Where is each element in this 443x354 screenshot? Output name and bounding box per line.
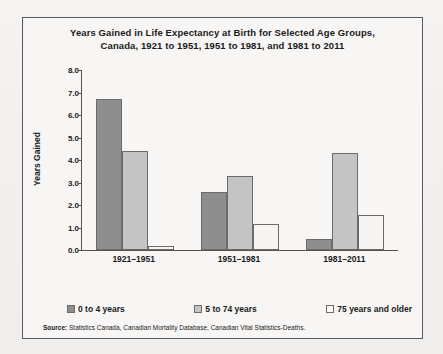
bar-1981–2011-75-years-and-older[interactable] [358,215,384,250]
bar-1951–1981-75-years-and-older[interactable] [253,224,279,250]
legend: 0 to 4 years5 to 74 years75 years and ol… [67,304,412,314]
source-prefix: Source: [43,324,67,331]
figure-container: Years Gained in Life Expectancy at Birth… [22,17,423,339]
legend-swatch-icon [67,305,75,313]
y-axis-tickmark [78,183,82,184]
legend-item-5-to-74-years[interactable]: 5 to 74 years [194,304,257,314]
y-axis-tickmark [78,250,82,251]
legend-swatch-icon [194,305,202,313]
y-axis-tickmark [78,115,82,116]
y-axis-label: Years Gained [32,132,42,186]
bar-group-1951–1981 [187,70,292,250]
source-text: Statistics Canada, Canadian Mortality Da… [69,324,305,331]
legend-label: 5 to 74 years [205,304,257,314]
x-axis-tick-labels: 1921–19511951–19811981–2011 [81,254,397,264]
y-axis-tickmark [78,160,82,161]
legend-item-0-to-4-years[interactable]: 0 to 4 years [67,304,125,314]
bar-groups [82,70,398,250]
bar-1921–1951-0-to-4-years[interactable] [96,99,122,250]
bar-1921–1951-5-to-74-years[interactable] [122,151,148,250]
bar-group-1921–1951 [82,70,187,250]
chart-title-line-1: Years Gained in Life Expectancy at Birth… [39,27,406,40]
bar-group-1981–2011 [293,70,398,250]
axes [81,70,398,251]
x-axis-tick-1951–1981: 1951–1981 [186,254,291,264]
plot-area: Years Gained 8.07.06.05.04.03.02.01.00.0… [23,58,422,306]
y-axis-tickmark [78,205,82,206]
chart-title: Years Gained in Life Expectancy at Birth… [39,27,406,52]
legend-label: 75 years and older [337,304,412,314]
y-axis-tickmark [78,138,82,139]
y-axis-tickmark [78,93,82,94]
source-note: Source: Statistics Canada, Canadian Mort… [43,324,410,331]
bar-1981–2011-0-to-4-years[interactable] [306,239,332,250]
legend-swatch-icon [326,305,334,313]
y-axis-tickmark [78,228,82,229]
x-axis-tick-1921–1951: 1921–1951 [81,254,186,264]
y-axis-tickmark [78,70,82,71]
x-axis-tick-1981–2011: 1981–2011 [292,254,397,264]
chart-title-line-2: Canada, 1921 to 1951, 1951 to 1981, and … [39,40,406,53]
legend-label: 0 to 4 years [78,304,125,314]
bar-1921–1951-75-years-and-older[interactable] [148,246,174,251]
bar-1951–1981-0-to-4-years[interactable] [201,192,227,251]
bar-1981–2011-5-to-74-years[interactable] [332,153,358,250]
legend-item-75-years-and-older[interactable]: 75 years and older [326,304,412,314]
y-axis-tick-labels: 8.07.06.05.04.03.02.01.00.0 [47,70,79,250]
bar-1951–1981-5-to-74-years[interactable] [227,176,253,250]
